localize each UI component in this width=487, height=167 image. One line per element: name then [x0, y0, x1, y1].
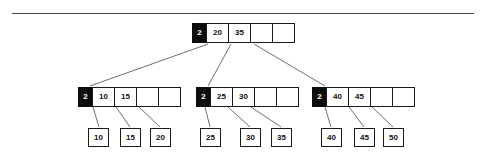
- edge-middle-to-leaf-35: [251, 107, 281, 127]
- leaf-node-35[interactable]: 35: [271, 128, 292, 147]
- leaf-node-30[interactable]: 30: [240, 128, 261, 147]
- internal-node-left-key-1: 15: [114, 87, 137, 107]
- leaf-node-20[interactable]: 20: [150, 128, 171, 147]
- edge-right-to-leaf-40: [325, 107, 331, 127]
- edge-root-to-right: [254, 44, 325, 86]
- edge-right-to-leaf-45: [349, 107, 364, 127]
- internal-node-right[interactable]: 24045: [312, 87, 415, 107]
- internal-node-middle-key-0: 25: [210, 87, 233, 107]
- edge-right-to-leaf-50: [372, 107, 393, 127]
- internal-node-left-empty-slot-1: [158, 87, 181, 107]
- internal-node-right-key-1: 45: [348, 87, 371, 107]
- edge-middle-to-leaf-30: [228, 107, 250, 127]
- internal-node-middle-empty-slot-1: [276, 87, 299, 107]
- root-node-empty-slot-1: [272, 23, 295, 43]
- leaf-node-15[interactable]: 15: [120, 128, 141, 147]
- internal-node-right-key-0: 40: [326, 87, 349, 107]
- edge-left-to-leaf-10: [93, 107, 99, 127]
- internal-node-middle[interactable]: 22530: [196, 87, 299, 107]
- internal-node-left-key-0: 10: [92, 87, 115, 107]
- root-node-key-1: 35: [228, 23, 251, 43]
- internal-node-right-empty-slot-0: [370, 87, 393, 107]
- internal-node-right-key-count: 2: [312, 87, 327, 107]
- internal-node-left[interactable]: 21015: [78, 87, 181, 107]
- internal-node-middle-key-1: 30: [232, 87, 255, 107]
- leaf-node-45[interactable]: 45: [354, 128, 375, 147]
- edge-left-to-leaf-15: [116, 107, 130, 127]
- internal-node-middle-key-count: 2: [196, 87, 211, 107]
- leaf-node-40[interactable]: 40: [321, 128, 342, 147]
- leaf-node-25[interactable]: 25: [200, 128, 221, 147]
- internal-node-left-empty-slot-0: [136, 87, 159, 107]
- leaf-node-50[interactable]: 50: [383, 128, 404, 147]
- edge-middle-to-leaf-25: [205, 107, 210, 127]
- edge-left-to-leaf-20: [139, 107, 160, 127]
- horizontal-rule: [12, 13, 474, 14]
- root-node-key-0: 20: [206, 23, 229, 43]
- root-node-key-count: 2: [192, 23, 207, 43]
- internal-node-right-empty-slot-1: [392, 87, 415, 107]
- leaf-node-10[interactable]: 10: [88, 128, 109, 147]
- root-node[interactable]: 22035: [192, 23, 295, 43]
- internal-node-middle-empty-slot-0: [254, 87, 277, 107]
- root-node-empty-slot-0: [250, 23, 273, 43]
- edge-root-to-middle: [208, 44, 231, 86]
- internal-node-left-key-count: 2: [78, 87, 93, 107]
- btree-diagram: 22035210152253024045101520253035404550: [0, 0, 487, 167]
- edge-root-to-left: [90, 44, 208, 86]
